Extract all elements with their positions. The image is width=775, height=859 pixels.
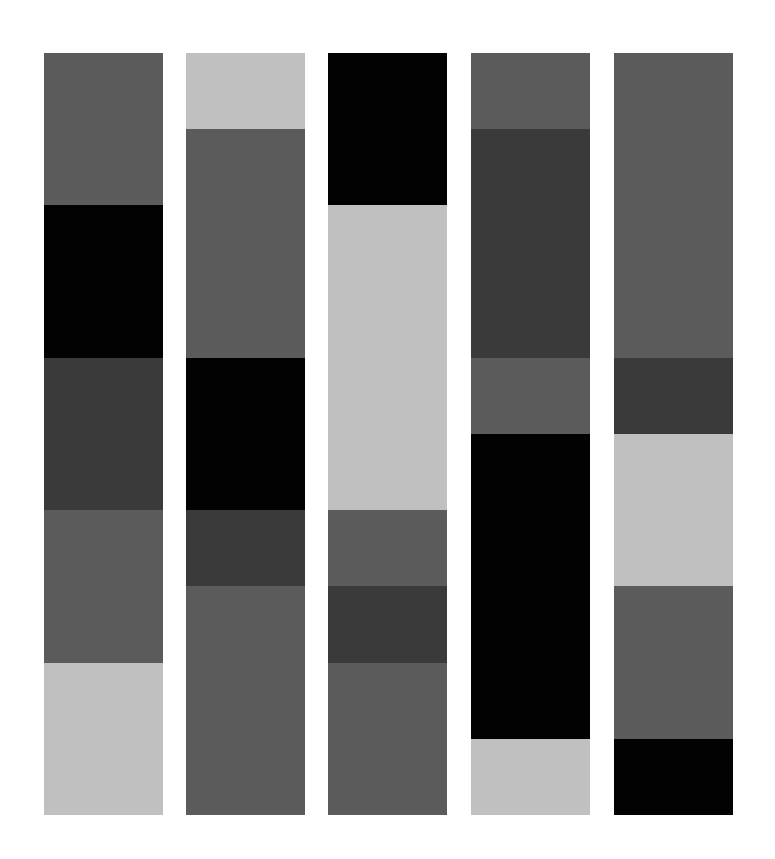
block-light [44, 663, 163, 815]
column-5 [614, 53, 733, 815]
column-4 [471, 53, 590, 815]
block-light [614, 434, 733, 586]
block-medium [328, 510, 447, 586]
block-light [186, 53, 305, 129]
block-dark [471, 129, 590, 358]
block-dark [328, 586, 447, 662]
block-dark [186, 510, 305, 586]
block-black [328, 53, 447, 205]
block-black [471, 434, 590, 739]
column-2 [186, 53, 305, 815]
block-medium [186, 129, 305, 358]
block-medium [471, 358, 590, 434]
block-medium [614, 53, 733, 358]
column-1 [44, 53, 163, 815]
block-medium [471, 53, 590, 129]
block-black [614, 739, 733, 815]
block-dark [44, 358, 163, 510]
block-medium [44, 53, 163, 205]
block-light [328, 205, 447, 510]
block-medium [614, 586, 733, 738]
block-medium [328, 663, 447, 815]
block-dark [614, 358, 733, 434]
block-light [471, 739, 590, 815]
block-black [44, 205, 163, 357]
block-medium [186, 586, 305, 815]
block-medium [44, 510, 163, 662]
block-black [186, 358, 305, 510]
column-3 [328, 53, 447, 815]
